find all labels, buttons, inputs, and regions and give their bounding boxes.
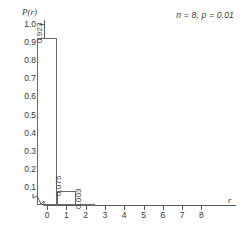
x-tick-label: 4 — [116, 211, 132, 220]
y-tick-label: 0.3 — [12, 147, 36, 156]
x-axis-line — [44, 205, 236, 206]
axis-break-icon — [31, 193, 47, 207]
y-axis-label: P(r) — [22, 7, 37, 17]
x-tick-label: 5 — [136, 211, 152, 220]
y-tick-label: 0.2 — [12, 165, 36, 174]
y-tick-label: 1.0 — [12, 20, 36, 29]
x-tick-label: 3 — [97, 211, 113, 220]
x-tick-label: 2 — [78, 211, 94, 220]
y-tick-label: 0.4 — [12, 129, 36, 138]
x-tick-label: 6 — [155, 211, 171, 220]
y-tick-label: 0.6 — [12, 92, 36, 101]
y-tick-label: 0.8 — [12, 56, 36, 65]
y-tick-label: 0.1 — [12, 183, 36, 192]
x-tick-label: 1 — [58, 211, 74, 220]
y-tick-label: 0.7 — [12, 74, 36, 83]
x-tick-label: 7 — [174, 211, 190, 220]
y-tick-label: 0.9 — [12, 38, 36, 47]
x-axis-label: r — [228, 195, 232, 205]
bar-value-label: 0.923 — [36, 22, 44, 43]
bar-value-label: 0.003 — [75, 189, 83, 210]
probability-histogram-chart: n = 8, p = 0.01 P(r) r 1.00.90.80.70.60.… — [0, 0, 242, 227]
y-tick-label: 0.5 — [12, 111, 36, 120]
chart-annotation: n = 8, p = 0.01 — [176, 10, 234, 20]
x-tick-label: 8 — [193, 211, 209, 220]
x-tick-label: 0 — [39, 211, 55, 220]
bar-value-label: 0.075 — [55, 176, 63, 197]
